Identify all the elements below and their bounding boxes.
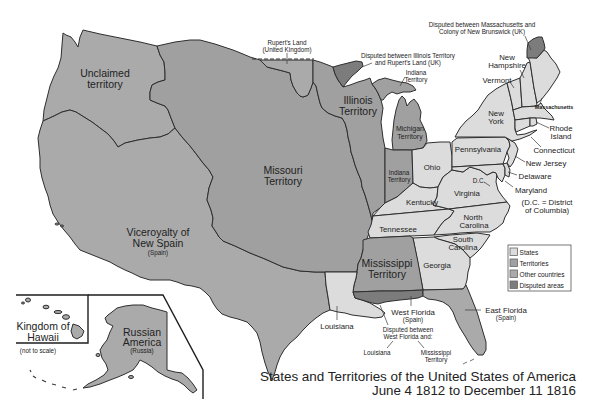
label-south-carolina-2: Carolina: [448, 243, 478, 252]
label-michigan-2: Territory: [397, 133, 423, 141]
legend-swatch-states: [510, 248, 518, 256]
label-dc: D.C.: [473, 177, 486, 184]
label-unclaimed-2: territory: [87, 78, 123, 90]
label-vermont: Vermont: [482, 76, 512, 85]
label-missouri-2: Territory: [264, 175, 303, 187]
legend: States Territories Other countries Dispu…: [508, 245, 571, 291]
legend-swatch-other-countries: [510, 270, 518, 278]
annotation-disputed-mississippi-2: Territory: [425, 356, 449, 364]
label-mississippi-2: Territory: [368, 268, 407, 280]
label-viceroyalty-2: New Spain: [133, 237, 184, 249]
label-tennessee: Tennessee: [379, 225, 417, 234]
annotation-disputed-louisiana: Louisiana: [364, 349, 391, 356]
label-maryland: Maryland: [515, 186, 547, 195]
annotation-indiana-territory-2: Territory: [405, 76, 429, 84]
legend-swatch-disputed: [510, 281, 518, 289]
island-channel-2: [61, 225, 64, 227]
annotation-disputed-maine-2: Colony of New Brunswick (UK): [439, 28, 525, 36]
annotation-disputed-illinois-2: and Rupert's Land (UK): [375, 59, 441, 67]
label-delaware: Delaware: [519, 172, 552, 181]
legend-swatch-territories: [510, 259, 518, 267]
label-russia: (Russia): [130, 347, 153, 355]
legend-label-disputed: Disputed areas: [520, 282, 565, 290]
label-michigan-1: Michigan: [396, 125, 424, 133]
label-illinois-2: Territory: [339, 105, 378, 117]
map-title: States and Territories of the United Sta…: [260, 369, 577, 384]
label-dc-note-2: of Columbia): [525, 206, 570, 215]
label-new-hampshire-2: Hampshire: [488, 61, 526, 70]
label-rhode-island-2: Island: [551, 132, 572, 141]
map-canvas: Unclaimed territory Viceroyalty of New S…: [0, 0, 593, 415]
map-figure: Unclaimed territory Viceroyalty of New S…: [0, 0, 593, 415]
label-not-to-scale: (not to scale): [20, 347, 56, 355]
island-nunivak: [96, 354, 100, 357]
label-north-carolina-2: Carolina: [459, 221, 489, 230]
label-viceroyalty-3: (Spain): [148, 249, 168, 257]
island-oahu: [43, 305, 49, 309]
island-kauai: [26, 298, 31, 302]
label-hawaii-2: Hawaii: [27, 331, 59, 343]
region-florida-spain: [423, 285, 486, 355]
region-rhode-island: [530, 118, 537, 126]
annotation-disputed-west-florida-2: West Florida and:: [383, 333, 432, 340]
label-georgia: Georgia: [423, 261, 451, 270]
label-ohio: Ohio: [424, 163, 441, 172]
island-maui: [63, 315, 70, 320]
map-date-range: June 4 1812 to December 11 1816: [372, 383, 576, 398]
region-michigan-territory: [392, 96, 427, 150]
label-connecticut: Connecticut: [533, 146, 575, 155]
aleutian-islands: [30, 370, 77, 390]
label-west-florida-2: (Spain): [403, 316, 423, 324]
island-molokai: [54, 311, 62, 314]
label-massachusetts: Massachusetts: [535, 104, 574, 110]
island-kodiak: [129, 376, 134, 379]
label-kentucky: Kentucky: [406, 198, 438, 207]
annotation-indiana-territory-1: Indiana: [406, 69, 427, 76]
island-channel-1: [55, 223, 59, 225]
island-hawaii: [71, 324, 84, 339]
annotation-ruperts-land-2: (United Kingdom): [263, 46, 312, 54]
region-connecticut: [515, 118, 530, 132]
label-virginia: Virginia: [454, 189, 481, 198]
label-new-york-2: York: [488, 117, 503, 126]
legend-label-other-countries: Other countries: [520, 271, 566, 278]
label-indiana-2: Territory: [388, 176, 412, 184]
florida-keys: [463, 359, 474, 364]
legend-label-states: States: [520, 249, 539, 256]
legend-label-territories: Territories: [520, 260, 550, 267]
island-niihau: [22, 302, 25, 304]
label-indiana-1: Indiana: [389, 169, 410, 176]
label-louisiana: Louisiana: [320, 322, 354, 331]
label-new-jersey: New Jersey: [526, 159, 567, 168]
label-pennsylvania: Pennsylvania: [455, 145, 502, 154]
label-east-florida-2: (Spain): [496, 314, 516, 322]
